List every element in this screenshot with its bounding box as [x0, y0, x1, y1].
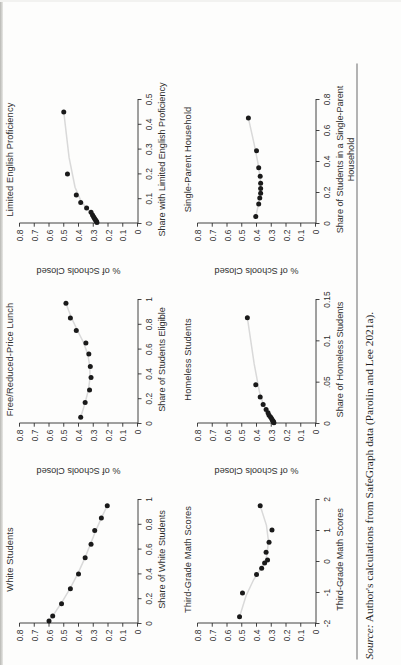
x-tick-label: 0.4: [321, 155, 331, 167]
x-tick-label: 0: [143, 421, 153, 426]
y-tick-label: 0.2: [281, 629, 291, 653]
source-note-wrap: Source: Author's calculations from SafeG…: [356, 59, 374, 659]
x-tick-label: .05: [321, 376, 331, 388]
x-tick-label: 0.4: [143, 118, 153, 130]
panel-single-parent-household: Single-Parent Household 00.10.20.30.40.5…: [182, 59, 360, 259]
panel-homeless-students: Homeless Students 00.10.20.30.40.50.60.7…: [182, 259, 360, 459]
y-tick-label: 0.4: [251, 429, 261, 453]
figure-grid: White Students 00.10.20.30.40.50.60.70.8…: [4, 59, 396, 659]
plot-area: 00.10.20.30.40.50.60.70.80.050.10.15% of…: [197, 299, 315, 423]
y-tick-label: 0.7: [29, 229, 39, 253]
y-axis-label: % of Schools Closed: [36, 265, 120, 275]
y-tick-label: 0.6: [222, 629, 232, 653]
panel-third-grade-math-scores: Third-Grade Math Scores 00.10.20.30.40.5…: [182, 459, 360, 659]
axis-lines: [19, 499, 138, 623]
axis-lines: [19, 99, 138, 223]
y-tick-label: 0.4: [73, 629, 83, 653]
x-axis-label: Share of Students in a Single-Parent: [334, 59, 344, 259]
x-tick-label: 0: [321, 421, 331, 426]
y-tick-label: 0.7: [29, 629, 39, 653]
y-tick-label: 0.5: [58, 229, 68, 253]
data-point: [104, 503, 109, 508]
y-tick-label: 0: [310, 229, 320, 253]
plot-area: 00.10.20.30.40.50.60.70.800.20.40.60.81%…: [19, 299, 137, 423]
data-point: [64, 171, 69, 176]
scatter-svg: [19, 298, 138, 423]
y-tick-label: 0: [132, 429, 142, 453]
x-axis-label: Share of Homeless Students: [334, 259, 344, 459]
scatter-svg: [197, 98, 316, 223]
x-axis-label: Third-Grade Math Scores: [334, 459, 344, 659]
x-tick-label: 1: [143, 297, 153, 302]
y-tick-label: 0.5: [236, 629, 246, 653]
y-tick-label: 0.2: [103, 429, 113, 453]
data-point: [269, 527, 274, 532]
data-point: [78, 199, 83, 204]
data-point: [256, 165, 261, 170]
x-tick-label: 0.4: [143, 568, 153, 580]
axis-lines: [19, 299, 138, 423]
panel-title: Limited English Proficiency: [4, 59, 14, 259]
x-tick-label: 0: [143, 621, 153, 626]
fit-line: [49, 505, 107, 620]
x-tick-label: 0.2: [143, 168, 153, 180]
scatter-svg: [197, 298, 316, 423]
panel-title: Free/Reduced-Price Lunch: [4, 259, 14, 459]
x-tick-label: 0: [321, 221, 331, 226]
scatter-svg: [19, 98, 138, 223]
fit-line: [63, 111, 96, 222]
source-divider: [356, 63, 357, 659]
x-tick-label: -2: [321, 619, 331, 626]
y-tick-label: 0.6: [44, 629, 54, 653]
plot-area: 00.10.20.30.40.50.60.70.8-2-1012% of Sch…: [197, 499, 315, 623]
y-tick-label: 0.4: [251, 229, 261, 253]
fit-line: [247, 317, 274, 422]
y-tick-label: 0.3: [266, 229, 276, 253]
data-point: [256, 201, 261, 206]
x-tick-label: 0.2: [321, 186, 331, 198]
data-point: [254, 148, 259, 153]
y-axis-label: % of Schools Closed: [214, 465, 298, 475]
data-point: [73, 328, 78, 333]
y-tick-label: 0.4: [251, 629, 261, 653]
axis-lines: [197, 499, 316, 623]
y-tick-label: 0.1: [295, 229, 305, 253]
source-prefix: Source:: [362, 624, 374, 659]
y-tick-label: 0: [310, 629, 320, 653]
x-tick-label: 0.6: [143, 543, 153, 555]
x-tick-label: 0: [321, 559, 331, 564]
y-tick-label: 0.3: [88, 629, 98, 653]
x-tick-label: 0.6: [321, 124, 331, 136]
y-tick-label: 0.2: [103, 229, 113, 253]
x-tick-label: -1: [321, 588, 331, 595]
x-tick-label: 0.15: [321, 291, 331, 307]
panel-title: White Students: [4, 459, 14, 659]
x-tick-label: 0.8: [321, 93, 331, 105]
data-point: [239, 590, 244, 595]
y-tick-label: 0.4: [73, 229, 83, 253]
panel-title: Single-Parent Household: [182, 59, 192, 259]
x-tick-label: 2: [321, 497, 331, 502]
y-tick-label: 0.3: [88, 429, 98, 453]
y-tick-label: 0.6: [44, 429, 54, 453]
scanned-page: White Students 00.10.20.30.40.50.60.70.8…: [0, 0, 401, 665]
panel-white-students: White Students 00.10.20.30.40.50.60.70.8…: [4, 459, 182, 659]
y-tick-label: 0.1: [117, 429, 127, 453]
data-point: [263, 406, 268, 411]
x-axis-label: Share of White Students: [156, 459, 166, 659]
y-tick-label: 0.8: [192, 429, 202, 453]
plot-area: 00.10.20.30.40.50.60.70.800.20.40.60.8% …: [197, 99, 315, 223]
scatter-svg: [19, 498, 138, 623]
y-tick-label: 0.1: [117, 629, 127, 653]
source-note: Source: Author's calculations from SafeG…: [362, 59, 374, 659]
source-text: Author's calculations from SafeGraph dat…: [362, 311, 374, 624]
y-tick-label: 0.1: [117, 229, 127, 253]
y-tick-label: 0.1: [295, 629, 305, 653]
y-axis-label: % of Schools Closed: [214, 265, 298, 275]
y-tick-label: 0.5: [58, 629, 68, 653]
data-point: [257, 173, 262, 178]
x-tick-label: 0.8: [143, 318, 153, 330]
y-tick-label: 0.8: [14, 229, 24, 253]
y-tick-label: 0.8: [192, 229, 202, 253]
y-axis-label: % of Schools Closed: [36, 465, 120, 475]
